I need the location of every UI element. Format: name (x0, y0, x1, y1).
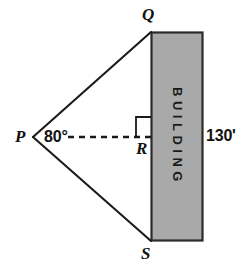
segment-pq (33, 32, 151, 137)
right-angle-marker (136, 117, 151, 137)
vertex-label-q: Q (142, 6, 154, 23)
distance-measure-label: 130' (206, 128, 236, 144)
angle-measure-label: 80° (44, 129, 68, 145)
segment-ps (33, 137, 151, 241)
building-rectangle (152, 33, 203, 241)
vertex-label-p: P (15, 128, 25, 145)
vertex-label-s: S (141, 245, 150, 262)
geometry-figure: P Q R S 80° 130' BUILDING (0, 0, 244, 279)
vertex-label-r: R (136, 140, 147, 157)
